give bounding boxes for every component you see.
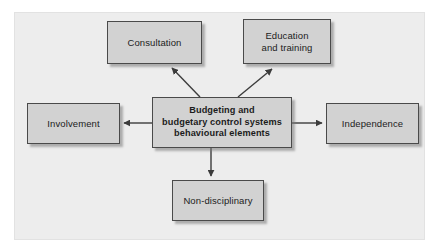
node-nondisciplinary-label: Non-disciplinary — [179, 195, 256, 207]
node-nondisciplinary[interactable]: Non-disciplinary — [172, 180, 264, 221]
node-consultation-label: Consultation — [123, 37, 185, 49]
node-center-label: Budgeting and budgetary control systems … — [158, 105, 286, 140]
node-involvement-label: Involvement — [43, 118, 103, 130]
node-independence[interactable]: Independence — [326, 103, 419, 144]
node-education-line2: and training — [262, 42, 313, 53]
connector-center-to-education — [238, 69, 272, 97]
diagram-root: Consultation Education and training Invo… — [0, 0, 438, 251]
node-education-line1: Education — [265, 30, 308, 41]
node-center[interactable]: Budgeting and budgetary control systems … — [152, 97, 292, 148]
connector-center-to-consultation — [172, 68, 200, 97]
node-independence-label: Independence — [338, 118, 407, 130]
node-education-label: Education and training — [258, 30, 317, 54]
node-center-line3: behavioural elements — [174, 128, 270, 138]
node-center-line1: Budgeting and — [189, 105, 255, 115]
node-consultation[interactable]: Consultation — [107, 21, 202, 64]
node-education[interactable]: Education and training — [243, 19, 331, 64]
node-involvement[interactable]: Involvement — [27, 103, 120, 144]
node-center-line2: budgetary control systems — [162, 117, 282, 127]
